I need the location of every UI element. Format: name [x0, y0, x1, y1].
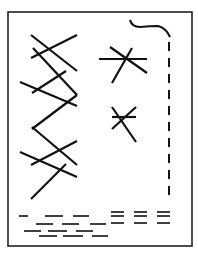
line-drawing-canvas [0, 0, 198, 254]
